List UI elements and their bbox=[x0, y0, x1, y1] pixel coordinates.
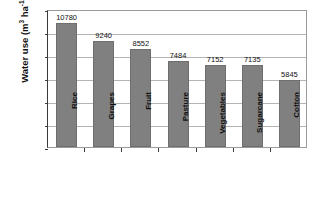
x-axis-tick-mark bbox=[270, 148, 271, 152]
x-axis-category-label: Fruit bbox=[144, 92, 153, 152]
y-axis-title: Water use (m3 ha-1) bbox=[18, 0, 32, 120]
x-axis-tick-mark bbox=[121, 148, 122, 152]
bar-value-label: 8552 bbox=[116, 40, 165, 48]
x-axis-category-label: Rice bbox=[70, 92, 79, 152]
plot-area: 120001000080006000400020000 107809240855… bbox=[47, 10, 307, 148]
x-axis-category-label: Cotton bbox=[292, 92, 301, 152]
x-axis-category-label: Pasture bbox=[181, 92, 190, 152]
bar-chart-figure: Water use (m3 ha-1) 12000100008000600040… bbox=[0, 0, 321, 210]
x-axis-tick-mark bbox=[84, 148, 85, 152]
bar-series: 10780924085527484715271355845 bbox=[48, 11, 306, 147]
x-axis-category-label: Grapes bbox=[107, 92, 116, 152]
x-axis-category-label: Sugarcane bbox=[255, 92, 264, 152]
y-axis-title-text-a: Water use (m bbox=[19, 24, 30, 83]
bar-value-label: 7135 bbox=[228, 56, 277, 64]
x-axis-tick-mark bbox=[233, 148, 234, 152]
y-axis-title-sup-b: -1 bbox=[18, 0, 25, 6]
y-axis-title-text-b: ha bbox=[19, 6, 30, 20]
bar-value-label: 9240 bbox=[79, 32, 128, 40]
bar-value-label: 10780 bbox=[42, 14, 91, 22]
x-axis-category-label: Vegetables bbox=[218, 92, 227, 152]
bar-value-label: 5845 bbox=[265, 71, 314, 79]
y-axis-tick-mark bbox=[45, 149, 48, 150]
y-axis-title-sup-a: 3 bbox=[18, 20, 25, 24]
x-axis-tick-mark bbox=[196, 148, 197, 152]
x-axis-tick-mark bbox=[158, 148, 159, 152]
